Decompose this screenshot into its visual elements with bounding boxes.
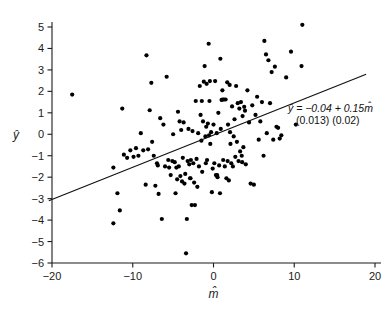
data-point xyxy=(240,160,244,164)
data-point xyxy=(238,149,242,153)
data-point xyxy=(166,158,170,162)
data-point xyxy=(211,123,215,127)
data-point xyxy=(182,120,186,124)
data-point xyxy=(195,185,199,189)
data-point xyxy=(173,160,177,164)
data-point xyxy=(205,158,209,162)
y-tick-label: −5 xyxy=(31,236,44,248)
data-point xyxy=(217,163,221,167)
data-point xyxy=(236,159,240,163)
data-point xyxy=(160,217,164,221)
data-point xyxy=(244,162,248,166)
data-point xyxy=(237,106,241,110)
y-tick-label: 0 xyxy=(38,128,44,140)
data-point xyxy=(196,131,200,135)
data-point xyxy=(183,172,187,176)
data-point xyxy=(144,183,148,187)
data-point xyxy=(208,142,212,146)
x-tick-label: 0 xyxy=(210,270,216,282)
data-point xyxy=(156,192,160,196)
y-tick-label: 4 xyxy=(38,42,44,54)
data-point xyxy=(163,164,167,168)
data-point xyxy=(240,154,244,158)
data-point xyxy=(136,154,140,158)
data-point xyxy=(223,164,227,168)
standard-errors-annotation: (0.013) (0.02) xyxy=(296,114,360,126)
data-point xyxy=(173,191,177,195)
data-point xyxy=(191,161,195,165)
data-point xyxy=(264,52,268,56)
data-point xyxy=(243,109,247,113)
data-point xyxy=(194,157,198,161)
data-point xyxy=(234,84,238,88)
tick-mark-group xyxy=(48,27,376,268)
y-tick-label: −3 xyxy=(31,193,44,205)
data-point xyxy=(167,165,171,169)
data-point xyxy=(207,99,211,103)
data-point xyxy=(260,100,264,104)
x-tick-label-group: −20−1001020 xyxy=(43,270,381,282)
regression-equation-annotation: ŷ = −0.04 + 0.15m̂ xyxy=(287,101,373,114)
y-tick-label: −2 xyxy=(31,171,44,183)
data-point xyxy=(128,148,132,152)
data-point xyxy=(131,155,135,159)
data-point xyxy=(252,183,256,187)
x-tick-label: −20 xyxy=(43,270,62,282)
data-point xyxy=(181,156,185,160)
data-point xyxy=(226,123,230,127)
data-point xyxy=(178,174,182,178)
data-point xyxy=(182,182,186,186)
data-point xyxy=(156,163,160,167)
data-point xyxy=(198,113,202,117)
data-point xyxy=(261,154,265,158)
data-point xyxy=(216,111,220,115)
data-point xyxy=(220,88,224,92)
data-point xyxy=(201,119,205,123)
data-point xyxy=(70,92,74,96)
data-point xyxy=(190,129,194,133)
data-point xyxy=(210,190,214,194)
data-point xyxy=(212,161,216,165)
data-point xyxy=(197,164,201,168)
data-point xyxy=(245,88,249,92)
data-point xyxy=(218,57,222,61)
data-point xyxy=(235,140,239,144)
data-point xyxy=(188,176,192,180)
data-point xyxy=(230,104,234,108)
data-point xyxy=(207,42,211,46)
data-point xyxy=(186,127,190,131)
y-tick-label: −4 xyxy=(31,214,44,226)
regression-fit-line xyxy=(49,74,366,200)
data-point xyxy=(193,203,197,207)
plot-canvas: −6−5−4−3−2−1012345 −20−1001020 ŷ m̂ ŷ =… xyxy=(0,0,387,312)
data-point xyxy=(250,103,254,107)
scatter-plot-figure: −6−5−4−3−2−1012345 −20−1001020 ŷ m̂ ŷ =… xyxy=(0,0,387,312)
data-point xyxy=(194,99,198,103)
data-point xyxy=(219,127,223,131)
data-point xyxy=(270,70,274,74)
data-point xyxy=(169,173,173,177)
data-point xyxy=(153,184,157,188)
data-point xyxy=(221,97,225,101)
data-point xyxy=(289,50,293,54)
data-point xyxy=(271,138,275,142)
data-point xyxy=(239,100,243,104)
x-tick-label: 20 xyxy=(369,270,381,282)
y-tick-label: 5 xyxy=(38,21,44,33)
data-point xyxy=(257,138,261,142)
data-point xyxy=(209,130,213,134)
data-point xyxy=(198,84,202,88)
data-point xyxy=(284,75,288,79)
data-point xyxy=(177,119,181,123)
data-point xyxy=(192,180,196,184)
data-point xyxy=(144,53,148,57)
data-point xyxy=(258,119,262,123)
x-tick-label: 10 xyxy=(288,270,300,282)
data-point xyxy=(255,95,259,99)
data-point xyxy=(165,75,169,79)
data-point xyxy=(152,154,156,158)
data-point xyxy=(221,158,225,162)
data-point xyxy=(175,177,179,181)
data-point xyxy=(184,251,188,255)
data-point xyxy=(242,105,246,109)
